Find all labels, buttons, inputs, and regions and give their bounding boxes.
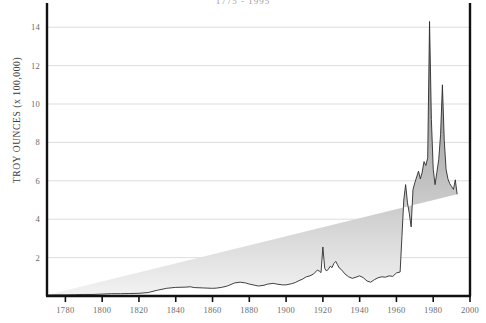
plot-area	[0, 0, 486, 323]
x-axis-tick-label: 1880	[229, 305, 269, 315]
x-axis-tick-label: 1820	[119, 305, 159, 315]
x-axis-tick-label: 1780	[45, 305, 85, 315]
x-axis-tick-label: 1800	[82, 305, 122, 315]
y-axis-tick-label: 14	[16, 22, 40, 32]
x-axis-tick-label: 1940	[340, 305, 380, 315]
series-area-fill	[47, 21, 457, 295]
x-axis-tick-label: 1900	[266, 305, 306, 315]
gridlines	[47, 27, 470, 257]
y-axis-tick-label: 2	[16, 253, 40, 263]
x-axis-tick-label: 1980	[413, 305, 453, 315]
y-axis-tick-label: 12	[16, 61, 40, 71]
y-axis-tick-label: 8	[16, 137, 40, 147]
x-axis-tick-label: 1840	[156, 305, 196, 315]
y-axis-tick-label: 4	[16, 214, 40, 224]
x-axis-tick-label: 1920	[303, 305, 343, 315]
gold-production-area-chart: 1775 - 1995 TROY OUNCES (x 100,000) 2468…	[0, 0, 486, 323]
y-axis-tick-label: 10	[16, 99, 40, 109]
x-axis-tick-label: 2000	[450, 305, 486, 315]
x-axis-tick-label: 1860	[193, 305, 233, 315]
x-axis-tick-label: 1960	[376, 305, 416, 315]
y-axis-tick-label: 6	[16, 176, 40, 186]
